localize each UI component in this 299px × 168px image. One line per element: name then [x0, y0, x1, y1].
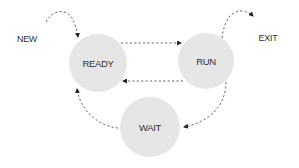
arrow-run-to-exit [222, 11, 253, 38]
arrow-wait-to-ready [77, 89, 118, 128]
state-run: RUN [178, 33, 234, 89]
exit-label: EXIT [259, 33, 279, 43]
state-wait: WAIT [120, 97, 180, 157]
run-label: RUN [196, 56, 216, 67]
state-diagram: READY RUN WAIT NEW EXIT [0, 0, 299, 168]
state-ready: READY [69, 34, 127, 92]
wait-label: WAIT [139, 122, 162, 133]
arrow-new-to-ready [46, 12, 78, 37]
ready-label: READY [82, 58, 114, 69]
new-label: NEW [17, 34, 38, 44]
